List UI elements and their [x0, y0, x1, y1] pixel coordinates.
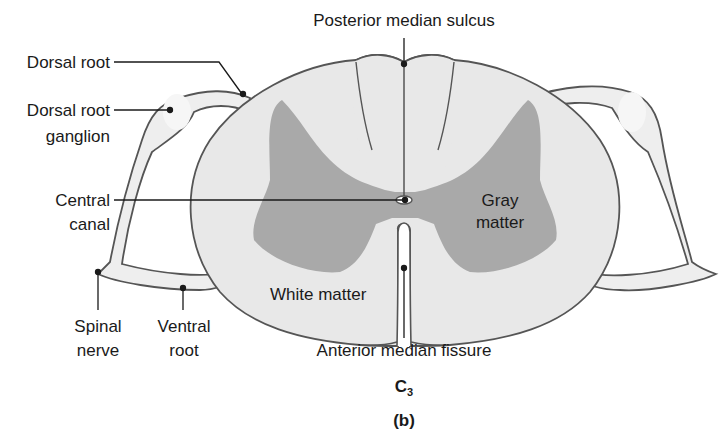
label-dorsal-root-ganglion-line1: Dorsal root	[0, 100, 110, 121]
segment-number: 3	[407, 386, 413, 398]
label-ventral-root-line1: Ventral	[146, 316, 222, 337]
label-central-canal-line1: Central	[0, 190, 110, 211]
label-posterior-median-sulcus: Posterior median sulcus	[284, 10, 524, 31]
label-white-matter: White matter	[270, 284, 366, 305]
label-central-canal-line2: canal	[0, 214, 110, 235]
segment-label: C3	[374, 376, 434, 403]
posterior-funiculus	[354, 55, 457, 188]
label-spinal-nerve-line2: nerve	[60, 340, 136, 361]
panel-label: (b)	[374, 410, 434, 431]
label-gray-matter-line1: Gray	[460, 190, 540, 211]
label-ventral-root-line2: root	[146, 340, 222, 361]
label-spinal-nerve-line1: Spinal	[60, 316, 136, 337]
label-gray-matter-line2: matter	[460, 212, 540, 233]
label-dorsal-root-ganglion-line2: ganglion	[0, 126, 110, 147]
label-dorsal-root: Dorsal root	[0, 52, 110, 73]
label-anterior-median-fissure: Anterior median fissure	[284, 340, 524, 361]
segment-letter: C	[395, 377, 407, 396]
